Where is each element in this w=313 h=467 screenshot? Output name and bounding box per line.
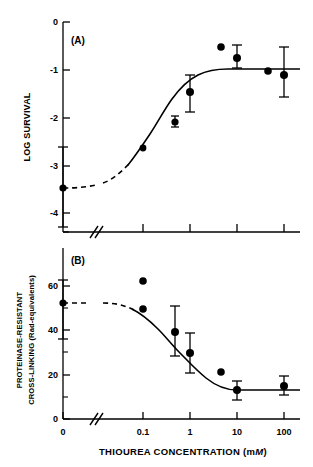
panel-a-datapoint-6 — [264, 67, 272, 75]
panel-b-datapoint-6 — [232, 381, 242, 400]
panel-b-label: (B) — [71, 255, 85, 266]
panel-b-datapoint-7 — [279, 376, 289, 395]
panel-a-datapoint-2 — [171, 116, 179, 127]
panel-a-datapoint-0 — [58, 147, 68, 227]
panel-a-datapoint-1 — [140, 145, 147, 152]
panel-b-datapoint-1 — [139, 277, 147, 285]
panel-b-datapoint-5 — [217, 368, 225, 376]
panel-a-ytick-label-m1: -1 — [50, 65, 58, 75]
figure-container: 0 -1 -2 -3 -4 (A) LOG SURVIVAL — [0, 0, 313, 467]
panel-b-ytick-label-40: 40 — [48, 325, 58, 335]
xtick-label-100: 100 — [276, 427, 291, 437]
x-axis-title-close: ) — [264, 446, 267, 457]
panel-b: 60 40 20 0 0 0.1 1 10 100 THIOUREA CONCE… — [15, 248, 300, 457]
dose-response-figure: 0 -1 -2 -3 -4 (A) LOG SURVIVAL — [0, 0, 313, 467]
panel-a: 0 -1 -2 -3 -4 (A) LOG SURVIVAL — [22, 17, 300, 238]
panel-b-y-axis-title-line2: CROSS-LINKING (Rad-equivalents) — [27, 275, 36, 405]
panel-a-label: (A) — [71, 35, 85, 46]
panel-b-fit-dashed-right — [103, 303, 134, 310]
panel-b-y-axis-title-line1: PROTEINASE-RESISTANT — [15, 292, 24, 389]
panel-a-fit-dashed-left — [63, 185, 96, 188]
panel-a-datapoint-5 — [232, 45, 242, 68]
panel-a-ytick-label-m4: -4 — [50, 208, 58, 218]
x-axis-title: THIOUREA CONCENTRATION (mM) — [99, 446, 267, 457]
panel-a-ytick-label-0: 0 — [53, 17, 58, 27]
panel-b-datapoint-2 — [139, 305, 147, 313]
panel-a-y-axis-title: LOG SURVIVAL — [22, 92, 32, 161]
x-axis-title-main: THIOUREA CONCENTRATION (m — [99, 446, 255, 457]
panel-b-ytick-label-60: 60 — [48, 281, 58, 291]
panel-b-ytick-label-20: 20 — [48, 370, 58, 380]
xtick-label-0: 0 — [60, 427, 65, 437]
panel-a-datapoint-7 — [279, 47, 289, 97]
panel-b-fit-curve — [132, 309, 300, 390]
panel-b-ytick-label-0: 0 — [53, 414, 58, 424]
panel-a-datapoint-3 — [185, 75, 195, 112]
panel-a-datapoint-4 — [217, 43, 225, 51]
panel-a-fit-dashed-right — [103, 163, 130, 183]
xtick-label-0p1: 0.1 — [137, 427, 150, 437]
panel-a-ytick-label-m2: -2 — [50, 113, 58, 123]
panel-a-ytick-label-m3: -3 — [50, 161, 58, 171]
panel-b-datapoint-3 — [170, 306, 180, 356]
panel-a-fit-curve — [128, 69, 300, 165]
xtick-label-10: 10 — [232, 427, 242, 437]
xtick-label-1: 1 — [187, 427, 192, 437]
